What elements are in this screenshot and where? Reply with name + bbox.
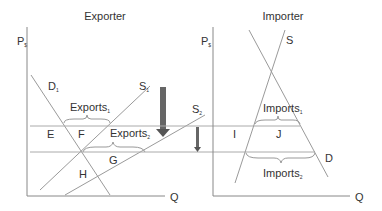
importer-panel: Importer P$ Q S D Imports1 Imports2 I J xyxy=(201,10,364,203)
importer-x-axis-label: Q xyxy=(355,191,364,203)
exports1-bracket xyxy=(64,115,110,123)
exports2-bracket xyxy=(83,142,145,152)
importer-y-axis-label: P$ xyxy=(201,35,211,48)
exports1-label: Exports1 xyxy=(70,101,110,114)
imports2-bracket xyxy=(246,153,315,163)
area-J-label: J xyxy=(276,128,282,140)
exporter-panel: Exporter P$ Q D1 S1 S2 Exports1 Exports2… xyxy=(17,10,205,203)
importer-title: Importer xyxy=(263,10,304,22)
exporter-x-axis-label: Q xyxy=(170,191,179,203)
area-H-label: H xyxy=(79,168,87,180)
small-price-drop-arrow-icon xyxy=(194,147,201,152)
imports1-bracket xyxy=(255,116,300,124)
exporter-demand-label: D1 xyxy=(48,80,59,93)
area-I-label: I xyxy=(233,128,236,140)
exports2-label: Exports2 xyxy=(110,127,150,140)
exporter-title: Exporter xyxy=(84,10,126,22)
imports1-label: Imports1 xyxy=(263,102,303,115)
exporter-supply1-label: S1 xyxy=(139,80,149,93)
exporter-supply2-label: S2 xyxy=(192,103,202,116)
exporter-y-axis-label: P$ xyxy=(17,35,27,48)
area-G-label: G xyxy=(109,154,118,166)
imports2-label: Imports2 xyxy=(263,167,303,180)
trade-diagram: Exporter P$ Q D1 S1 S2 Exports1 Exports2… xyxy=(0,0,382,211)
importer-demand-label: D xyxy=(325,152,333,164)
large-price-drop-arrow-shaft xyxy=(160,87,166,130)
area-F-label: F xyxy=(78,128,85,140)
importer-supply-label: S xyxy=(286,34,293,46)
area-E-label: E xyxy=(47,128,54,140)
small-price-drop-arrow-shaft xyxy=(196,127,199,147)
